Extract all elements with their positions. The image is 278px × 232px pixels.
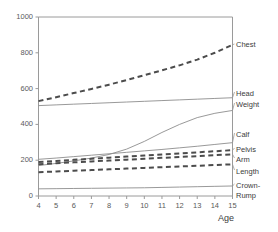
series-label-crown: Crown- (236, 181, 260, 190)
y-tick-label: 200 (0, 155, 33, 164)
series-label-chest: Chest (236, 40, 256, 49)
x-tick-label: 15 (223, 201, 243, 210)
y-tick-label: 0 (0, 191, 33, 200)
series-label-weight: Weight (236, 100, 259, 109)
series-lines (39, 45, 233, 189)
y-tick-label: 600 (0, 84, 33, 93)
series-label-calf: Calf (236, 130, 249, 139)
x-axis-title: Age (218, 213, 234, 223)
y-tick-label: 400 (0, 119, 33, 128)
series-label-length: Length (236, 167, 259, 176)
y-tick-label: 1000 (0, 12, 33, 21)
y-tick-label: 800 (0, 48, 33, 57)
series-label-rump: Rump (236, 191, 256, 200)
series-label-pelvis: Pelvis (236, 145, 256, 154)
series-label-arm: Arm (236, 155, 250, 164)
growth-curves-chart: 02004006008001000 456789101112131415 Che… (0, 0, 278, 232)
series-label-head: Head (236, 89, 254, 98)
